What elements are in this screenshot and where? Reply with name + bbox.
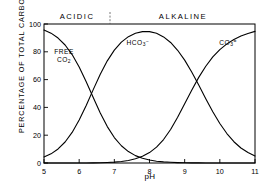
free-co2-label-line2: CO xyxy=(57,56,68,63)
free-co2-curve-label: FREE CO2 xyxy=(44,48,84,66)
carbonate-curve-label: CO3= xyxy=(208,38,248,49)
y-axis-title: PERCENTAGE OF TOTAL CARBON xyxy=(17,0,26,138)
y-tick-label: 100 xyxy=(29,20,41,29)
free-co2-label-line1: FREE xyxy=(54,48,74,55)
plot-area: 020406080100 567891011 xyxy=(0,0,268,186)
co3-superscript: = xyxy=(233,39,236,44)
y-tick-label: 0 xyxy=(37,159,41,168)
hco3-superscript: − xyxy=(146,39,149,44)
carbonate-speciation-chart: PERCENTAGE OF TOTAL CARBON ACIDIC ALKALI… xyxy=(0,0,268,186)
x-axis-title: pH xyxy=(44,172,256,181)
co3-label-text: CO xyxy=(219,39,230,46)
y-axis-tick-labels: 020406080100 xyxy=(29,20,41,168)
hco3-label-text: HCO xyxy=(127,39,143,46)
y-tick-label: 40 xyxy=(33,103,41,112)
bicarbonate-curve-label: HCO3− xyxy=(116,38,160,49)
y-tick-label: 80 xyxy=(33,47,41,56)
y-tick-label: 20 xyxy=(33,131,41,140)
free-co2-subscript: 2 xyxy=(68,59,71,64)
alkaline-region-label: ALKALINE xyxy=(110,12,256,21)
y-tick-label: 60 xyxy=(33,75,41,84)
acidic-region-label: ACIDIC xyxy=(44,12,110,21)
